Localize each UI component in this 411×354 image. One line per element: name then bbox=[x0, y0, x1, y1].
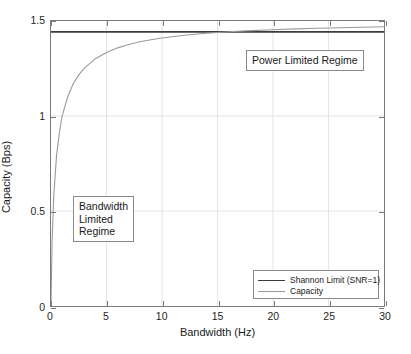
x-tick-mark-top bbox=[107, 21, 108, 26]
x-tick-mark-top bbox=[330, 21, 331, 26]
y-tick-mark-right bbox=[379, 212, 384, 213]
x-tick-mark bbox=[51, 301, 52, 306]
y-tick-label: 1.5 bbox=[45, 14, 60, 26]
y-tick-label: 1 bbox=[45, 110, 51, 122]
x-tick-label: 15 bbox=[212, 310, 224, 322]
y-tick-mark bbox=[51, 117, 56, 118]
legend-item: Shannon Limit (SNR=1) bbox=[258, 275, 374, 286]
x-tick-mark bbox=[163, 301, 164, 306]
legend-line-swatch bbox=[258, 280, 285, 281]
annotation-line: Power Limited Regime bbox=[252, 54, 358, 67]
x-tick-mark-top bbox=[163, 21, 164, 26]
legend-label: Capacity bbox=[290, 286, 323, 297]
x-tick-label: 20 bbox=[267, 310, 279, 322]
annotation-bandwidth-limited-regime: BandwidthLimitedRegime bbox=[73, 196, 134, 242]
x-tick-mark-top bbox=[219, 21, 220, 26]
annotation-line: Limited bbox=[79, 213, 128, 226]
y-tick-label: 0 bbox=[45, 301, 51, 313]
x-axis-title: Bandwidth (Hz) bbox=[50, 326, 385, 338]
y-tick-mark-right bbox=[379, 117, 384, 118]
y-tick-label: 0.5 bbox=[45, 205, 60, 217]
x-tick-mark bbox=[274, 301, 275, 306]
x-tick-label: 5 bbox=[103, 310, 109, 322]
x-tick-label: 25 bbox=[323, 310, 335, 322]
x-tick-mark-top bbox=[386, 21, 387, 26]
y-axis-title: Capacity (Bps) bbox=[0, 0, 14, 354]
y-tick-mark bbox=[51, 308, 56, 309]
legend-item: Capacity bbox=[258, 286, 374, 297]
y-tick-mark-right bbox=[379, 308, 384, 309]
x-tick-label: 10 bbox=[156, 310, 168, 322]
x-tick-mark bbox=[330, 301, 331, 306]
x-tick-mark bbox=[219, 301, 220, 306]
chart-figure: 051015202530 00.511.5 Bandwidth (Hz) Cap… bbox=[0, 0, 411, 354]
x-tick-label: 30 bbox=[379, 310, 391, 322]
annotation-line: Bandwidth bbox=[79, 200, 128, 213]
y-tick-mark-right bbox=[379, 21, 384, 22]
x-tick-mark bbox=[386, 301, 387, 306]
x-tick-mark bbox=[107, 301, 108, 306]
legend-line-swatch bbox=[258, 291, 285, 292]
annotation-line: Regime bbox=[79, 225, 128, 238]
legend-label: Shannon Limit (SNR=1) bbox=[290, 275, 380, 286]
chart-legend: Shannon Limit (SNR=1)Capacity bbox=[253, 270, 379, 299]
x-tick-mark-top bbox=[274, 21, 275, 26]
annotation-power-limited-regime: Power Limited Regime bbox=[246, 50, 364, 71]
